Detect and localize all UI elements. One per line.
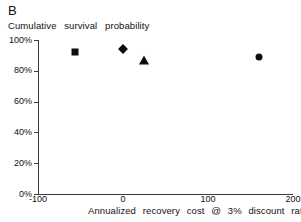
y-tick-mark [34,40,38,41]
y-tick-label: 60% [2,97,32,106]
x-tick-label: -100 [29,195,47,204]
x-tick-label: 100 [200,195,215,204]
chart-figure: B Cumulative survival probability 0%20%4… [0,0,301,222]
circle-point [256,53,263,60]
x-tick-label: 200 [285,195,300,204]
y-tick-mark [34,71,38,72]
y-tick-label: 0% [2,190,32,199]
y-axis-line [38,40,39,195]
y-tick-mark [34,163,38,164]
y-tick-mark [34,102,38,103]
y-axis-title: Cumulative survival probability [8,21,149,31]
diamond-point [118,44,128,54]
y-tick-label: 80% [2,66,32,75]
x-tick-label: 0 [120,195,125,204]
x-axis-line [38,194,293,195]
y-tick-label: 40% [2,128,32,137]
x-axis-title: Annualized recovery cost @ 3% discount r… [88,206,301,216]
y-tick-label: 20% [2,159,32,168]
square-point [71,49,78,56]
y-tick-mark [34,132,38,133]
y-tick-label: 100% [2,36,32,45]
panel-letter: B [8,4,17,17]
triangle-point [139,56,149,65]
